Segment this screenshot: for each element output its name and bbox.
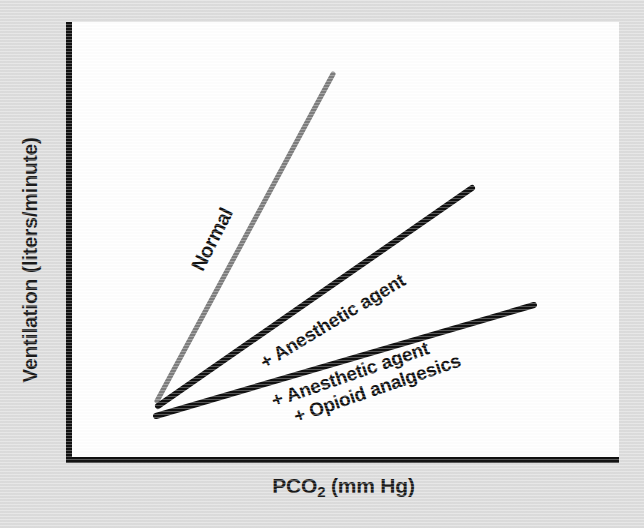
figure-container: Normal + Anesthetic agent + Anesthetic a… <box>0 0 644 528</box>
series-line-normal <box>157 74 333 401</box>
x-axis-title-subscript: 2 <box>317 483 325 500</box>
x-axis-title: PCO2 (mm Hg) <box>68 474 619 498</box>
x-axis-title-main: PCO <box>272 474 317 497</box>
x-axis-title-tail: (mm Hg) <box>325 474 414 497</box>
y-axis-title: Ventilation (liters/minute) <box>18 80 42 440</box>
curves-overlay <box>0 0 644 528</box>
